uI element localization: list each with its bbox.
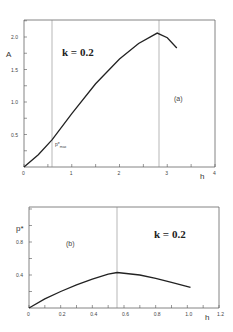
panel-a-y-ticks: 0.51.01.52.0 bbox=[11, 21, 27, 151]
panel-a-x-ticks: 01234 bbox=[22, 164, 216, 176]
y-tick-label: 0.8 bbox=[16, 239, 23, 245]
panel-b-k-label: k = 0.2 bbox=[154, 228, 186, 240]
panel-b-y-ticks: 0.40.8 bbox=[16, 209, 32, 292]
x-tick-label: 0.6 bbox=[122, 311, 129, 317]
panel-a-frame bbox=[24, 20, 215, 167]
x-tick-label: 0 bbox=[27, 311, 30, 317]
x-tick-label: 0 bbox=[22, 170, 25, 176]
x-tick-label: 1 bbox=[70, 170, 73, 176]
y-tick-label: 0.4 bbox=[16, 272, 23, 278]
x-tick-label: 2 bbox=[118, 170, 121, 176]
y-tick-label: 0.5 bbox=[11, 132, 18, 138]
panel-b-panel-label: (b) bbox=[66, 240, 75, 248]
y-tick-label: 1.5 bbox=[11, 67, 18, 73]
x-tick-label: 1.0 bbox=[185, 311, 192, 317]
x-tick-label: 0.8 bbox=[154, 311, 161, 317]
panel-b-chart: 00.20.40.60.81.01.2 0.40.8 p* h k = 0.2 … bbox=[16, 207, 224, 322]
x-tick-label: 0.4 bbox=[90, 311, 97, 317]
panel-b-x-ticks: 00.20.40.60.81.01.2 bbox=[27, 305, 224, 317]
figure: 01234 0.51.01.52.0 A h k = 0.2 (a) p*max… bbox=[0, 0, 233, 332]
x-tick-label: 3 bbox=[165, 170, 168, 176]
panel-a-chart: 01234 0.51.01.52.0 A h k = 0.2 (a) p*max bbox=[6, 20, 216, 181]
panel-b-x-label: h bbox=[205, 313, 209, 322]
panel-a-point-label: p*max bbox=[55, 141, 67, 149]
panel-a-panel-label: (a) bbox=[174, 95, 183, 103]
panel-a-x-label: h bbox=[200, 172, 204, 181]
x-tick-label: 1.2 bbox=[217, 311, 224, 317]
panel-a-y-label: A bbox=[6, 50, 12, 59]
panel-b-curve bbox=[29, 273, 191, 309]
y-tick-label: 1.0 bbox=[11, 99, 18, 105]
panel-b-y-label: p* bbox=[16, 224, 24, 233]
panel-a-k-label: k = 0.2 bbox=[62, 46, 94, 58]
y-tick-label: 2.0 bbox=[11, 34, 18, 40]
x-tick-label: 4 bbox=[213, 170, 216, 176]
panel-a-curve bbox=[24, 33, 177, 167]
x-tick-label: 0.2 bbox=[59, 311, 66, 317]
